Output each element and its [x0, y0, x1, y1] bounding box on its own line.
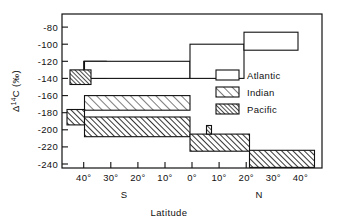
x-tick-label: 40° [76, 172, 91, 183]
y-axis-title-rest: C (‰) [10, 70, 21, 97]
pacific-box-north [250, 150, 315, 167]
x-tick-label: 10° [157, 172, 172, 183]
legend-label-atlantic: Atlantic [247, 70, 281, 81]
legend-label-pacific: Pacific [247, 104, 277, 115]
x-tick-label: 10° [211, 172, 226, 183]
hemisphere-labels: S N [121, 189, 263, 200]
x-tick-label: 30° [266, 172, 281, 183]
pacific-box-40s-surface [70, 70, 91, 85]
x-tick-label: 40° [293, 172, 308, 183]
pacific-box-40s-deep [67, 110, 85, 125]
legend-swatch-indian [216, 87, 239, 97]
x-tick-label: 30° [103, 172, 118, 183]
x-axis-title: Latitude [150, 207, 187, 218]
x-axis-tick-labels: 40° 30° 20° 10° 0° 10° 20° 30° 40° [76, 172, 308, 183]
series-indian [85, 96, 191, 111]
legend-entry-indian: Indian [216, 87, 275, 98]
pacific-box-south [85, 117, 191, 137]
y-axis-ticks [62, 27, 68, 164]
y-tick-label: -80 [43, 22, 58, 33]
y-tick-label: -140 [38, 73, 58, 84]
y-tick-label: -180 [38, 107, 58, 118]
y-tick-label: -240 [38, 159, 58, 170]
y-tick-label: -220 [38, 141, 58, 152]
legend-entry-pacific: Pacific [216, 104, 277, 115]
y-tick-label: -120 [38, 56, 58, 67]
atlantic-box-north [244, 32, 298, 50]
chart-legend: Atlantic Indian Pacific [216, 70, 281, 115]
y-tick-label: -160 [38, 90, 58, 101]
legend-swatch-pacific [216, 104, 239, 114]
atlantic-box-south [85, 61, 191, 78]
x-tick-label: 0° [187, 172, 197, 183]
y-axis-title-superscript: 14 [10, 97, 17, 105]
x-tick-label: 20° [130, 172, 145, 183]
legend-entry-atlantic: Atlantic [216, 70, 281, 81]
legend-label-indian: Indian [247, 87, 275, 98]
chart-figure: -80 -100 -120 -140 -160 -180 -200 -220 -… [0, 0, 338, 222]
y-axis-title: Δ14C (‰) [10, 70, 22, 112]
hemisphere-label-north: N [256, 189, 263, 200]
x-tick-label: 20° [239, 172, 254, 183]
y-tick-label: -200 [38, 124, 58, 135]
series-pacific [67, 70, 315, 168]
pacific-box-narrow-5n [207, 126, 212, 135]
chart-svg: -80 -100 -120 -140 -160 -180 -200 -220 -… [0, 0, 338, 222]
legend-swatch-atlantic [216, 70, 239, 80]
y-axis-tick-labels: -80 -100 -120 -140 -160 -180 -200 -220 -… [38, 22, 58, 170]
indian-box-south [85, 96, 191, 111]
svg-text:Δ14C (‰): Δ14C (‰) [10, 70, 22, 112]
hemisphere-label-south: S [121, 189, 127, 200]
y-tick-label: -100 [38, 39, 58, 50]
pacific-box-equatorial [190, 134, 250, 151]
